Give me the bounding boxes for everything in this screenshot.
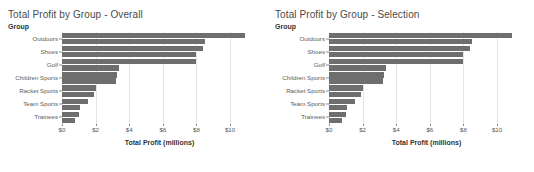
bar[interactable] [329, 112, 346, 117]
x-axis-tick-label: $4 [126, 127, 133, 133]
bar[interactable] [329, 118, 342, 123]
y-axis-tick-label: Children Sports [282, 75, 325, 81]
y-axis-tick-label: Team Sports [290, 101, 325, 107]
bar[interactable] [329, 39, 472, 44]
bar[interactable] [329, 52, 463, 57]
bar[interactable] [329, 78, 383, 83]
x-axis-selection: $0$2$4$6$8$10 [329, 124, 524, 138]
bar[interactable] [329, 92, 361, 97]
bar[interactable] [62, 52, 196, 57]
bar[interactable] [329, 46, 470, 51]
y-axis-labels-selection: OutdoorsShoesGolfChildren SportsRacket S… [273, 32, 329, 124]
y-axis-tick-label: Shoes [307, 49, 325, 55]
y-axis-tick-label: Golf [314, 62, 325, 68]
bars-container-selection [329, 32, 524, 124]
x-axis-tick-label: $8 [193, 127, 200, 133]
bar[interactable] [329, 99, 355, 104]
y-axis-title-selection: Group [273, 22, 524, 31]
y-axis-labels-overall: OutdoorsShoesGolfChildren SportsRacket S… [6, 32, 62, 124]
bar[interactable] [62, 33, 245, 38]
bar[interactable] [62, 78, 116, 83]
y-axis-tick-label: Outdoors [33, 35, 58, 41]
bar[interactable] [62, 118, 75, 123]
y-axis-title-overall: Group [6, 22, 257, 31]
bar[interactable] [62, 59, 196, 64]
y-axis-tick-label: Shoes [40, 49, 58, 55]
gridline [497, 32, 498, 124]
y-axis-tick-label: Racket Sports [286, 88, 325, 94]
bar[interactable] [62, 105, 80, 110]
bar[interactable] [62, 112, 79, 117]
x-axis-tick-label: $4 [393, 127, 400, 133]
y-axis-tick-label: Racket Sports [19, 88, 58, 94]
bar[interactable] [62, 39, 205, 44]
bar[interactable] [329, 65, 386, 70]
x-axis-tick-label: $2 [92, 127, 99, 133]
y-axis-tick-label: Team Sports [23, 101, 58, 107]
y-axis-tick-label: Outdoors [300, 35, 325, 41]
bar[interactable] [62, 46, 203, 51]
bar[interactable] [62, 85, 96, 90]
dashboard: Total Profit by Group - Overall Group Ou… [0, 0, 534, 172]
gridline [230, 32, 231, 124]
y-axis-tick-label: Golf [47, 62, 58, 68]
bar[interactable] [329, 85, 363, 90]
bar[interactable] [329, 59, 463, 64]
bar[interactable] [62, 65, 119, 70]
bar[interactable] [62, 72, 117, 77]
x-axis-title-overall: Total Profit (millions) [62, 139, 257, 146]
x-axis-tick-label: $2 [359, 127, 366, 133]
x-axis-tick-label: $6 [426, 127, 433, 133]
x-axis-tick-label: $6 [159, 127, 166, 133]
plot-area-selection: OutdoorsShoesGolfChildren SportsRacket S… [273, 32, 524, 124]
bar[interactable] [62, 92, 94, 97]
x-axis-title-selection: Total Profit (millions) [329, 139, 524, 146]
y-axis-tick-label: Trainees [301, 114, 325, 120]
chart-panel-overall: Total Profit by Group - Overall Group Ou… [0, 0, 267, 172]
x-axis-tick-label: $10 [492, 127, 502, 133]
y-axis-tick-label: Trainees [34, 114, 58, 120]
x-axis-tick-label: $8 [460, 127, 467, 133]
bar[interactable] [62, 99, 88, 104]
x-axis-overall: $0$2$4$6$8$10 [62, 124, 257, 138]
bars-container-overall [62, 32, 257, 124]
y-axis-tick-label: Children Sports [15, 75, 58, 81]
x-axis-tick-label: $0 [59, 127, 66, 133]
x-axis-tick-label: $10 [225, 127, 235, 133]
bar[interactable] [329, 105, 347, 110]
bar[interactable] [329, 33, 512, 38]
plot-area-overall: OutdoorsShoesGolfChildren SportsRacket S… [6, 32, 257, 124]
chart-title-overall: Total Profit by Group - Overall [6, 8, 257, 22]
chart-panel-selection: Total Profit by Group - Selection Group … [267, 0, 534, 172]
bar[interactable] [329, 72, 384, 77]
x-axis-tick-label: $0 [326, 127, 333, 133]
chart-title-selection: Total Profit by Group - Selection [273, 8, 524, 22]
